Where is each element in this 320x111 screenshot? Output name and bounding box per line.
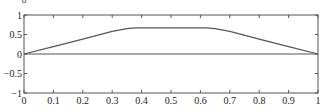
x-tick-label: 0.6 bbox=[194, 95, 207, 106]
y-tick-label: 0.5 bbox=[10, 29, 23, 40]
x-tick-label: 0.8 bbox=[253, 95, 266, 106]
x-tick-label: 0.1 bbox=[47, 95, 60, 106]
x-tick-label: 0.5 bbox=[165, 95, 178, 106]
y-tick-label: 0 bbox=[17, 49, 22, 60]
x-tick-label: 1 bbox=[316, 95, 320, 106]
x-tick-label: 0.3 bbox=[106, 95, 119, 106]
y-tick-label: −1 bbox=[11, 88, 22, 99]
x-tick-label: 0.9 bbox=[282, 95, 295, 106]
y-axis-label-partial: δ bbox=[22, 0, 27, 5]
series-profile bbox=[24, 28, 318, 54]
y-tick-label: −0.5 bbox=[4, 68, 22, 79]
x-tick-label: 0.7 bbox=[224, 95, 237, 106]
x-axis-ticks: 00.10.20.30.40.50.60.70.80.91 bbox=[22, 15, 320, 106]
line-chart: δ 00.10.20.30.40.50.60.70.80.91 −1−0.500… bbox=[0, 0, 320, 111]
x-tick-label: 0 bbox=[22, 95, 27, 106]
x-tick-label: 0.2 bbox=[77, 95, 90, 106]
series-group bbox=[24, 28, 318, 54]
x-tick-label: 0.4 bbox=[135, 95, 148, 106]
y-tick-label: 1 bbox=[17, 10, 22, 21]
